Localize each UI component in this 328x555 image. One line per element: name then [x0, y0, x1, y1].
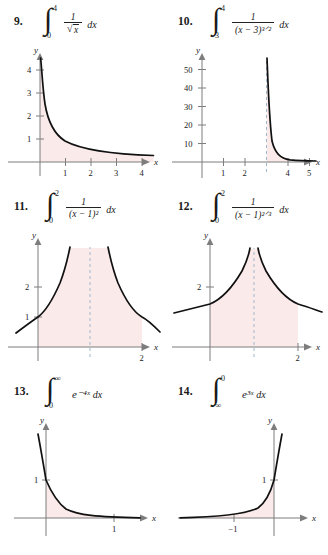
integrand-14: e³ˣ	[242, 388, 253, 400]
problem-number-11: 11.	[14, 200, 28, 212]
x-axis-arrow-11	[142, 344, 150, 351]
integrand-13: e⁻⁴ˣ	[72, 388, 90, 401]
integral-glyph-icon: ∫	[212, 374, 220, 404]
y-tick-label-10-10: 10	[184, 139, 193, 149]
x-tick-label-3-9: 3	[114, 168, 118, 178]
x-axis-label-12: x	[315, 342, 320, 352]
problem-number-13: 13.	[14, 385, 29, 397]
y-tick-label-2-9: 2	[27, 111, 31, 121]
integral-sign-11: ∫ 2 0	[44, 191, 64, 227]
graph-14-svg: y x −1 1	[164, 406, 328, 546]
y-axis-label-10: y	[195, 45, 200, 55]
x-axis-arrow-14	[300, 515, 308, 522]
problem-number-10: 10.	[178, 15, 193, 27]
problem-number-9: 9.	[14, 15, 23, 27]
integrand-numerator-10: 1	[232, 12, 274, 22]
problem-number-14: 14.	[178, 385, 193, 397]
y-tick-label-50-10: 50	[184, 65, 193, 75]
differential-14: dx	[256, 389, 265, 400]
x-axis-arrow-12	[304, 344, 312, 351]
integral-lower-limit-12: 0	[215, 216, 219, 225]
integrand-denominator-11: (x − 1)²	[66, 207, 101, 219]
integral-expression-11: ∫ 2 0 1 (x − 1)² dx	[44, 189, 116, 229]
y-axis-label-9: y	[33, 45, 38, 55]
x-tick-label-4-9: 4	[140, 168, 145, 178]
integral-sign-9: ∫ 4 0	[42, 6, 62, 42]
exercise-page: 9. ∫ 4 0 1 x dx	[0, 0, 328, 555]
integral-upper-limit-11: 2	[55, 189, 59, 198]
curve-10	[267, 58, 316, 161]
x-axis-arrow-13	[140, 515, 148, 522]
integral-glyph-icon: ∫	[212, 4, 220, 34]
x-tick-label-1-13: 1	[112, 524, 116, 534]
x-tick-label-2-9: 2	[89, 168, 93, 178]
problem-number-12: 12.	[178, 200, 193, 212]
x-tick-label-2-11: 2	[140, 353, 144, 363]
y-tick-label-30-10: 30	[184, 102, 193, 112]
y-tick-label-2-12: 2	[197, 282, 201, 292]
y-tick-label-40-10: 40	[184, 83, 193, 93]
integral-expression-9: ∫ 4 0 1 x dx	[42, 4, 97, 44]
integrand-denominator-12: (x − 1)²ᐟ³	[232, 207, 274, 220]
integrand-fraction-11: 1 (x − 1)²	[66, 197, 101, 219]
problem-block-10: 10. ∫ 4 3 1 (x − 3)³ᐟ² dx	[164, 0, 328, 185]
x-axis-label-13: x	[151, 513, 156, 523]
integral-lower-limit-9: 0	[47, 31, 51, 40]
y-axis-label-13: y	[39, 415, 44, 425]
y-tick-label-1-14: 1	[262, 475, 266, 485]
integral-sign-12: ∫ 2 0	[210, 191, 230, 227]
integral-glyph-icon: ∫	[46, 189, 54, 219]
x-tick-label-1-10: 1	[221, 168, 225, 178]
problem-statement-10: 10. ∫ 4 3 1 (x − 3)³ᐟ² dx	[164, 0, 328, 48]
problem-statement-9: 9. ∫ 4 0 1 x dx	[0, 0, 164, 48]
integrand-denominator-10: (x − 3)³ᐟ²	[232, 22, 274, 35]
y-axis-label-14: y	[267, 415, 272, 425]
y-tick-label-1-9: 1	[27, 134, 31, 144]
integrand-fraction-12: 1 (x − 1)²ᐟ³	[232, 197, 274, 220]
differential-12: dx	[279, 204, 288, 215]
integral-glyph-icon: ∫	[212, 189, 220, 219]
integral-expression-10: ∫ 4 3 1 (x − 3)³ᐟ² dx	[210, 4, 289, 44]
x-tick-label-4-10: 4	[286, 168, 291, 178]
integrand-fraction-10: 1 (x − 3)³ᐟ²	[232, 12, 274, 35]
x-axis-label-10: x	[315, 157, 320, 167]
integrand-fraction-9: 1 x	[64, 12, 82, 35]
integral-lower-limit-11: 0	[49, 216, 53, 225]
y-tick-label-20-10: 20	[184, 120, 193, 130]
graph-12-svg: y x 2 2	[164, 225, 328, 365]
integrand-denominator-9: x	[64, 22, 82, 35]
x-tick-label-1-9: 1	[63, 168, 67, 178]
integral-sign-10: ∫ 4 3	[210, 6, 230, 42]
differential-11: dx	[106, 204, 115, 215]
y-tick-label-1-13: 1	[34, 475, 38, 485]
x-axis-arrow-10	[304, 159, 312, 166]
integral-lower-limit-10: 3	[215, 31, 219, 40]
integral-glyph-icon: ∫	[44, 4, 52, 34]
x-axis-label-9: x	[153, 157, 158, 167]
differential-10: dx	[279, 19, 288, 30]
graph-9-svg: y x 1 2 3 4 1 2 3 4	[0, 44, 164, 184]
problem-block-9: 9. ∫ 4 0 1 x dx	[0, 0, 164, 185]
integral-upper-limit-10: 4	[221, 4, 225, 13]
x-axis-label-14: x	[311, 513, 316, 523]
y-axis-label-11: y	[31, 230, 36, 240]
graph-11-svg: y x 2 1 2	[0, 225, 164, 365]
integrand-numerator-11: 1	[66, 197, 101, 207]
integral-upper-limit-14: 0	[221, 374, 225, 383]
shaded-region-13	[46, 480, 124, 518]
y-axis-label-12: y	[203, 230, 208, 240]
y-tick-label-1-11: 1	[25, 312, 29, 322]
graph-10-svg: y x 1 2 4 5 10 20 30 40 50	[164, 44, 328, 184]
problem-block-12: 12. ∫ 2 0 1 (x − 1)²ᐟ³ dx	[164, 185, 328, 370]
shaded-region-9	[40, 60, 154, 162]
x-tick-label-2-10: 2	[243, 168, 247, 178]
graph-13-svg: y x 1 1	[0, 406, 164, 546]
problem-block-14: 14. ∫ 0 −∞ e³ˣ dx y x	[164, 370, 328, 555]
integral-upper-limit-13: ∞	[55, 374, 61, 383]
x-tick-label-2-12: 2	[296, 353, 300, 363]
x-axis-label-11: x	[153, 342, 158, 352]
problem-block-11: 11. ∫ 2 0 1 (x − 1)² dx	[0, 185, 164, 370]
x-tick-label-neg1-14: −1	[229, 524, 238, 534]
integral-upper-limit-12: 2	[221, 189, 225, 198]
problem-block-13: 13. ∫ ∞ 0 e⁻⁴ˣ dx y x	[0, 370, 164, 555]
